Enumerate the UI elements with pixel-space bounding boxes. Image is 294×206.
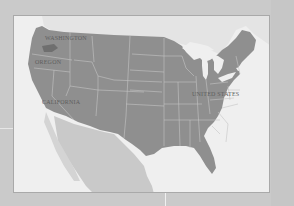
label-california: California <box>42 99 80 105</box>
label-oregon: Oregon <box>35 59 61 65</box>
margin-tick-left <box>0 128 13 129</box>
right-margin <box>271 0 294 206</box>
label-washington: Washington <box>45 35 87 41</box>
label-united-states: United States <box>192 91 239 97</box>
map-frame: Washington Oregon California United Stat… <box>13 15 270 193</box>
margin-tick-bottom <box>165 193 166 206</box>
